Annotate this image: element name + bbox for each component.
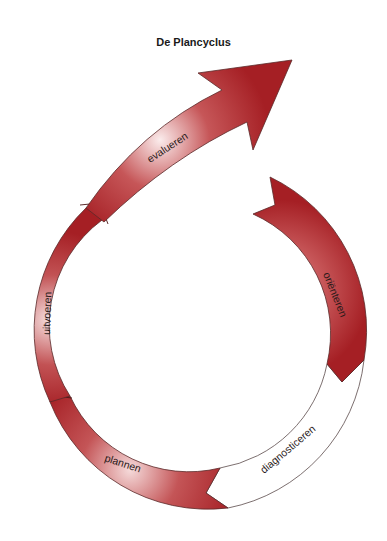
segment-orienteren — [253, 177, 367, 382]
label-uitvoeren: uitvoeren — [40, 291, 54, 335]
plancyclus-diagram: evalueren oriënteren uitvoeren plannen d… — [0, 0, 387, 541]
segment-evalueren — [86, 60, 292, 222]
segment-plannen — [50, 396, 228, 509]
segment-diagnosticeren — [206, 360, 364, 508]
